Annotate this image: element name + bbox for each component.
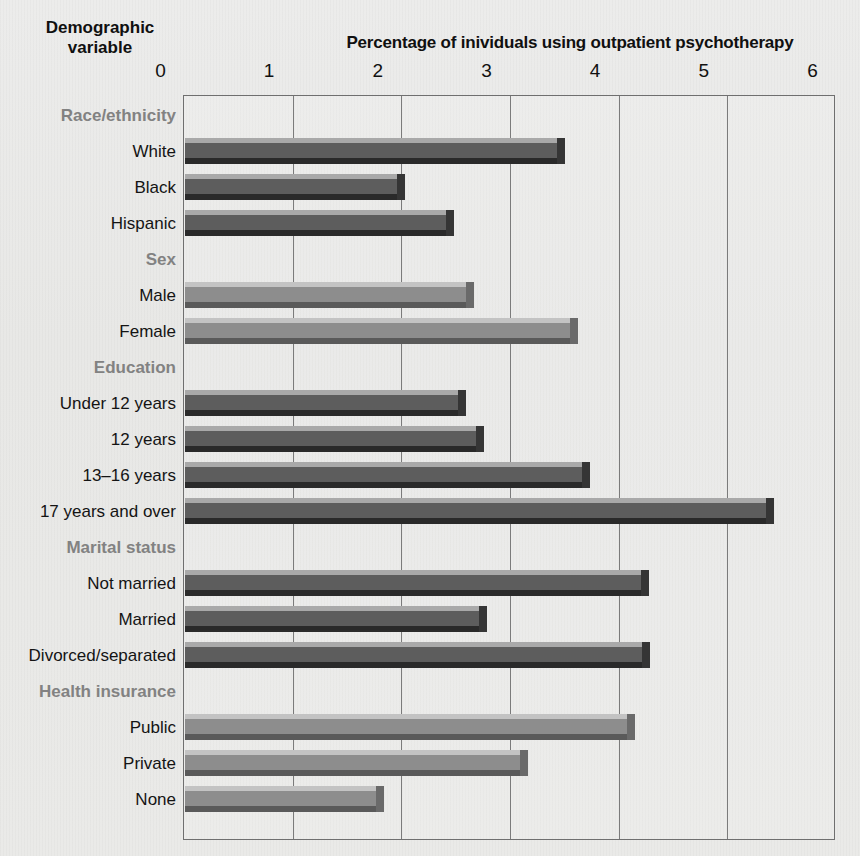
plot-area: Race/ethnicityWhiteBlackHispanicSexMaleF… bbox=[183, 95, 835, 840]
bar-face bbox=[185, 791, 384, 806]
bar-label: Private bbox=[4, 746, 176, 782]
bar[interactable] bbox=[185, 426, 484, 452]
bar[interactable] bbox=[185, 390, 466, 416]
bar-bottom bbox=[185, 770, 528, 776]
bar[interactable] bbox=[185, 462, 590, 488]
group-row-sex: Sex bbox=[184, 242, 834, 278]
bar-row: Private bbox=[184, 746, 834, 782]
bar-row: Male bbox=[184, 278, 834, 314]
bar-bottom bbox=[185, 662, 650, 668]
group-row-health-insurance: Health insurance bbox=[184, 674, 834, 710]
x-tick-1: 1 bbox=[239, 60, 284, 82]
bar-cap bbox=[642, 642, 650, 668]
bar-bottom bbox=[185, 338, 578, 344]
bar-cap bbox=[479, 606, 487, 632]
y-axis-title: Demographic variable bbox=[20, 18, 180, 58]
bar-cap bbox=[476, 426, 484, 452]
bar-row: 13–16 years bbox=[184, 458, 834, 494]
bar-bottom bbox=[185, 482, 590, 488]
bar-row: None bbox=[184, 782, 834, 818]
bar-row: Under 12 years bbox=[184, 386, 834, 422]
bar-label: Hispanic bbox=[4, 206, 176, 242]
bar[interactable] bbox=[185, 570, 649, 596]
bar-row: 17 years and over bbox=[184, 494, 834, 530]
bar-face bbox=[185, 431, 484, 446]
x-axis-title: Percentage of inividuals using outpatien… bbox=[300, 33, 840, 53]
bar-cap bbox=[446, 210, 454, 236]
bar-face bbox=[185, 611, 487, 626]
group-label: Race/ethnicity bbox=[4, 98, 176, 134]
bar-bottom bbox=[185, 302, 474, 308]
bar-face bbox=[185, 143, 565, 158]
bar-cap bbox=[458, 390, 466, 416]
bar-cap bbox=[520, 750, 528, 776]
bar-face bbox=[185, 503, 774, 518]
bar-label: Black bbox=[4, 170, 176, 206]
bar-row: Female bbox=[184, 314, 834, 350]
bar-cap bbox=[376, 786, 384, 812]
bar-bottom bbox=[185, 410, 466, 416]
bar[interactable] bbox=[185, 606, 487, 632]
bar-row: Married bbox=[184, 602, 834, 638]
bar-bottom bbox=[185, 734, 635, 740]
bar-face bbox=[185, 575, 649, 590]
bar-label: 17 years and over bbox=[4, 494, 176, 530]
bar-label: Married bbox=[4, 602, 176, 638]
bar-cap bbox=[397, 174, 405, 200]
bar-cap bbox=[766, 498, 774, 524]
bar[interactable] bbox=[185, 786, 384, 812]
bar-label: None bbox=[4, 782, 176, 818]
bar-cap bbox=[557, 138, 565, 164]
bar-bottom bbox=[185, 230, 454, 236]
bar-label: Under 12 years bbox=[4, 386, 176, 422]
x-tick-3: 3 bbox=[457, 60, 502, 82]
bar[interactable] bbox=[185, 714, 635, 740]
bar-row: Black bbox=[184, 170, 834, 206]
bar-cap bbox=[582, 462, 590, 488]
bar[interactable] bbox=[185, 498, 774, 524]
bar-face bbox=[185, 719, 635, 734]
x-tick-0: 0 bbox=[131, 60, 176, 82]
bar-cap bbox=[627, 714, 635, 740]
bar-row: Hispanic bbox=[184, 206, 834, 242]
y-axis-title-line2: variable bbox=[20, 38, 180, 58]
bar-cap bbox=[466, 282, 474, 308]
x-tick-6: 6 bbox=[783, 60, 828, 82]
bar[interactable] bbox=[185, 642, 650, 668]
bar-bottom bbox=[185, 158, 565, 164]
bar-bottom bbox=[185, 590, 649, 596]
bar-label: Not married bbox=[4, 566, 176, 602]
bar[interactable] bbox=[185, 138, 565, 164]
bar[interactable] bbox=[185, 750, 528, 776]
group-row-marital-status: Marital status bbox=[184, 530, 834, 566]
bar-bottom bbox=[185, 626, 487, 632]
bar-label: White bbox=[4, 134, 176, 170]
group-row-race-ethnicity: Race/ethnicity bbox=[184, 98, 834, 134]
bar-face bbox=[185, 755, 528, 770]
bar-row: Public bbox=[184, 710, 834, 746]
bar-row: Not married bbox=[184, 566, 834, 602]
bar-face bbox=[185, 395, 466, 410]
bar-row: 12 years bbox=[184, 422, 834, 458]
x-tick-5: 5 bbox=[674, 60, 719, 82]
bar-face bbox=[185, 647, 650, 662]
bar[interactable] bbox=[185, 282, 474, 308]
bar-row: Divorced/separated bbox=[184, 638, 834, 674]
bar[interactable] bbox=[185, 318, 578, 344]
bar-cap bbox=[641, 570, 649, 596]
bar-label: 12 years bbox=[4, 422, 176, 458]
bar-bottom bbox=[185, 806, 384, 812]
bar[interactable] bbox=[185, 174, 405, 200]
bar-cap bbox=[570, 318, 578, 344]
bar-label: Public bbox=[4, 710, 176, 746]
bar[interactable] bbox=[185, 210, 454, 236]
bar-label: Male bbox=[4, 278, 176, 314]
bar-face bbox=[185, 215, 454, 230]
bar-bottom bbox=[185, 194, 405, 200]
bar-face bbox=[185, 323, 578, 338]
bar-bottom bbox=[185, 518, 774, 524]
bar-row: White bbox=[184, 134, 834, 170]
bar-face bbox=[185, 179, 405, 194]
group-label: Sex bbox=[4, 242, 176, 278]
bar-label: Female bbox=[4, 314, 176, 350]
